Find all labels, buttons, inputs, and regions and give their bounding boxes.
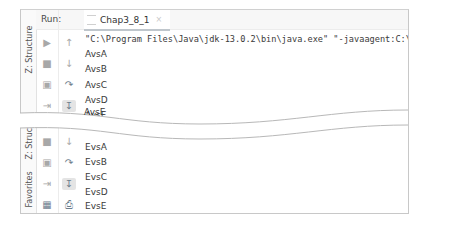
line-avse-overlay: AvsE [84, 107, 105, 117]
torn-edge-divider [0, 0, 450, 226]
